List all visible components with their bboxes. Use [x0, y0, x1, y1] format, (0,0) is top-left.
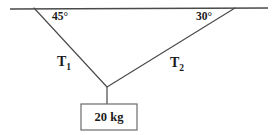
- cable-left-line: [34, 8, 107, 87]
- mass-block-label: 20 kg: [81, 104, 137, 130]
- tension-label-t2: T2: [170, 56, 184, 73]
- angle-label-right: 30°: [196, 11, 212, 23]
- diagram-canvas: [0, 0, 274, 135]
- cable-right-line: [107, 8, 235, 87]
- horizontal-support-line: [10, 8, 268, 9]
- angle-label-left: 45°: [52, 11, 68, 23]
- tension-label-t1: T1: [57, 55, 71, 72]
- tension-symbol-t1: T: [57, 54, 66, 69]
- tension-subscript-t2: 2: [179, 63, 184, 73]
- tension-symbol-t2: T: [170, 55, 179, 70]
- tension-subscript-t1: 1: [66, 62, 71, 72]
- physics-force-diagram: 45° 30° T1 T2 20 kg: [0, 0, 274, 135]
